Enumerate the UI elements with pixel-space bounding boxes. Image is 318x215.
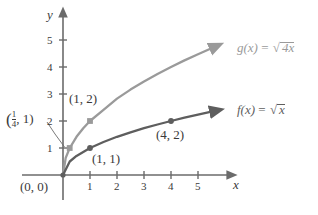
fraction-one-quarter: 14 [12,110,17,130]
radical-vinculum-g [280,42,294,43]
y-tick-label-2: 2 [47,116,53,127]
x-tick-label-2: 2 [114,181,120,192]
x-tick-label-3: 3 [141,181,147,192]
radical-vinculum-f [277,104,285,105]
y-tick-label-1: 1 [47,143,53,154]
point-marker-quarter-one [67,145,73,151]
fraction-denominator: 4 [12,119,17,129]
point-label-origin: (0, 0) [20,180,48,193]
function-label-g: g(x) = √4x [237,41,294,54]
radical-g: √4x [272,41,294,54]
point-label-four-two: (4, 2) [156,128,184,141]
equals-sign-f: = [258,102,265,117]
function-name-g: g(x) [237,40,258,55]
y-tick-label-5: 5 [47,35,53,46]
point-marker-origin [60,172,65,177]
equals-sign-g: = [261,40,268,55]
paren-close-and-y: , 1) [16,111,33,126]
point-label-quarter-one: (14, 1) [6,110,34,130]
x-axis [22,171,228,179]
x-tick-label-1: 1 [87,181,93,192]
x-axis-label: x [233,178,239,191]
fraction-numerator: 1 [12,110,17,119]
curve-f [63,112,212,175]
point-label-one-one: (1, 1) [92,152,120,165]
function-label-f: f(x) = √x [237,103,285,116]
y-axis-label: y [47,8,53,21]
radical-f: √x [269,103,285,116]
y-tick-label-3: 3 [47,89,53,100]
point-label-one-two: (1, 2) [69,92,97,105]
point-marker-four-two [168,118,174,124]
function-name-f: f(x) [237,102,255,117]
x-tick-label-4: 4 [168,181,174,192]
point-marker-one-two [87,118,93,124]
figure-canvas: 1 2 3 4 5 1 2 3 4 5 y x (1, 2) (1, 1) (4… [0,0,318,215]
y-tick-label-4: 4 [47,62,53,73]
curve-g [63,48,212,175]
x-tick-label-5: 5 [195,181,201,192]
